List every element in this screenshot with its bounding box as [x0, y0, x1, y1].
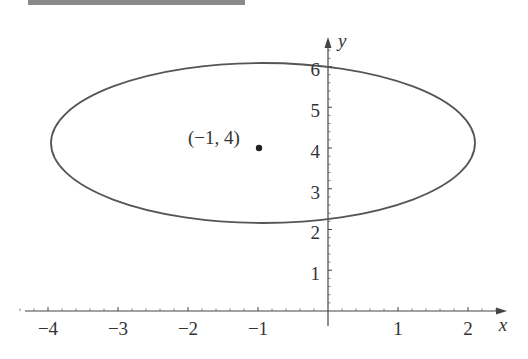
- y-tick-label-1: 1: [311, 263, 321, 284]
- y-tick-label-4: 4: [311, 141, 321, 162]
- x-axis-label: x: [498, 314, 508, 335]
- x-tick-label-m2: −2: [178, 318, 198, 339]
- x-tick-label-m1: −1: [248, 318, 268, 339]
- x-tick-label-p2: 2: [463, 318, 473, 339]
- center-point: [256, 145, 262, 151]
- y-tick-label-6: 6: [311, 59, 321, 80]
- y-tick-label-5: 5: [311, 100, 321, 121]
- x-tick-label-m4: −4: [38, 318, 59, 339]
- x-tick-label-p1: 1: [393, 318, 403, 339]
- y-tick-label-3: 3: [311, 182, 321, 203]
- x-axis: [20, 307, 507, 315]
- x-tick-label-m3: −3: [108, 318, 128, 339]
- y-axis-label: y: [336, 30, 347, 51]
- y-axis-arrow-icon: [325, 37, 332, 48]
- y-axis: [325, 37, 333, 326]
- ellipse-curve: [51, 63, 475, 223]
- y-tick-label-2: 2: [311, 222, 321, 243]
- center-point-label: (−1, 4): [188, 127, 240, 149]
- ellipse-chart: (−1, 4) −4 −3 −2 −1 1 2 1 2 3 4 5 6 x y: [0, 0, 528, 359]
